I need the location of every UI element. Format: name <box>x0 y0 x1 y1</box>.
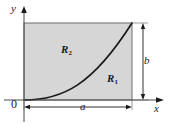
y-axis-label: y <box>11 3 16 14</box>
y-axis-arrowhead <box>21 6 27 13</box>
dimension-label-b: b <box>144 55 150 66</box>
shaded-rectangle <box>24 23 132 100</box>
region-r2-subscript: 2 <box>69 49 72 56</box>
region-r2-letter: R <box>61 43 68 55</box>
dimension-arrow-a-left <box>24 105 30 109</box>
origin-label: 0 <box>11 98 17 110</box>
region-label-r1: R1 <box>107 73 118 84</box>
dimension-arrow-b-top <box>141 23 145 29</box>
dimension-label-a: a <box>80 101 86 112</box>
region-label-r2: R2 <box>61 44 72 55</box>
region-r1-subscript: 1 <box>115 78 118 85</box>
x-axis-label: x <box>154 103 159 114</box>
dimension-arrow-a-right <box>126 105 132 109</box>
region-r1-letter: R <box>107 72 114 84</box>
dimension-arrow-b-bottom <box>141 94 145 100</box>
figure-container: y x 0 a b R2 R1 <box>0 0 169 124</box>
